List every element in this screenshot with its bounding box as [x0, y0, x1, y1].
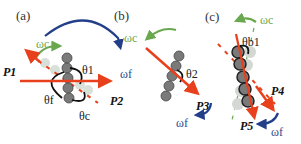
robot-body-icon [62, 53, 74, 103]
thetaf-label: θf [44, 93, 54, 107]
p2-label: P2 [110, 94, 123, 108]
omega-c-label: ωc [124, 31, 137, 45]
omega-c-label: ωc [260, 13, 273, 27]
theta2-label: θ2 [186, 67, 198, 81]
omega-c-arrow-icon [238, 18, 256, 22]
omega-f-arrow-icon [260, 113, 278, 124]
omega-f-arrow-icon [45, 20, 120, 46]
panel-a-label: (a) [16, 8, 30, 23]
omega-c-arrow-icon [148, 29, 176, 38]
panel-b-label: (b) [114, 8, 129, 23]
theta1-label: θ1 [82, 63, 94, 77]
p4-label: P4 [271, 84, 284, 98]
robot-body-icon [161, 51, 184, 101]
p5-label: P5 [240, 119, 253, 133]
thetab1-label: θb1 [242, 35, 260, 49]
omega-f-label: ωf [271, 125, 283, 139]
omega-f-label: ωf [120, 67, 132, 81]
thetac-label: θc [79, 109, 90, 123]
diagram-canvas: (a) ωf ωc P1 P2 θ1 θf θc (b) ωc [0, 0, 301, 144]
panel-c-label: (c) [205, 9, 219, 24]
panel-c: (c) ωc θb1 P4 P5 ωf [205, 9, 284, 139]
p1-label: P1 [3, 65, 16, 79]
omega-c-label: ωc [36, 37, 49, 51]
omega-f-label: ωf [176, 116, 188, 130]
panel-a: (a) ωf ωc P1 P2 θ1 θf θc [3, 8, 132, 123]
